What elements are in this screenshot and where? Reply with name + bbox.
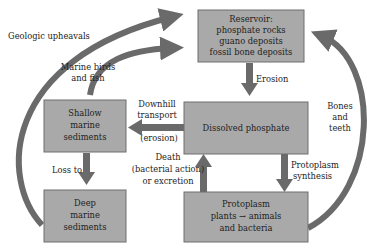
reservoir-line-4: fossil bone deposits	[210, 47, 293, 57]
shallow-line-1: Shallow	[68, 108, 101, 118]
shallow-marine-sediments-box: Shallow marine sediments	[44, 100, 126, 152]
marine-birds-label-2: and fish	[71, 73, 105, 83]
death-arrow	[195, 154, 212, 195]
bones-label-2: and	[332, 112, 348, 122]
phosphorus-cycle-diagram: Reservoir: phosphate rocks guano deposit…	[0, 0, 367, 252]
reservoir-box: Reservoir: phosphate rocks guano deposit…	[198, 10, 304, 62]
protoplasm-line-3: and bacteria	[220, 223, 273, 233]
deep-marine-sediments-box: Deep marine sediments	[44, 190, 126, 242]
deep-line-3: sediments	[64, 222, 107, 232]
marine-birds-label-1: Marine birds	[61, 62, 115, 72]
protoplasm-line-1: Protoplasm	[222, 199, 270, 209]
reservoir-line-3: guano deposits	[219, 36, 283, 46]
protoplasm-box: Protoplasm plants → animals and bacteria	[184, 192, 308, 242]
reservoir-line-1: Reservoir:	[229, 14, 272, 24]
deep-line-1: Deep	[74, 198, 96, 208]
dissolved-phosphate-label: Dissolved phosphate	[203, 123, 290, 133]
synthesis-label-2: synthesis	[293, 171, 332, 181]
synthesis-label-1: Protoplasm	[291, 160, 339, 170]
bones-label-3: teeth	[329, 123, 351, 133]
deep-line-2: marine	[70, 210, 100, 220]
bones-label-1: Bones	[327, 101, 353, 111]
downhill-label-1: Downhill	[138, 99, 176, 109]
shallow-line-2: marine	[70, 120, 100, 130]
downhill-label-3: (erosion)	[140, 133, 178, 143]
loss-to-label: Loss to	[52, 165, 82, 175]
protoplasm-synthesis-arrow	[276, 153, 293, 192]
protoplasm-line-2: plants → animals	[211, 211, 282, 221]
downhill-label-2: transport	[137, 110, 177, 120]
erosion-label: Erosion	[256, 74, 289, 84]
death-label-1: Death	[155, 152, 181, 162]
death-label-3: or excretion	[142, 176, 194, 186]
shallow-line-3: sediments	[64, 132, 107, 142]
geologic-upheavals-label: Geologic upheavals	[8, 31, 90, 41]
reservoir-line-2: phosphate rocks	[216, 25, 285, 35]
death-label-2: (bacterial action)	[132, 164, 204, 174]
dissolved-phosphate-box: Dissolved phosphate	[184, 102, 308, 154]
